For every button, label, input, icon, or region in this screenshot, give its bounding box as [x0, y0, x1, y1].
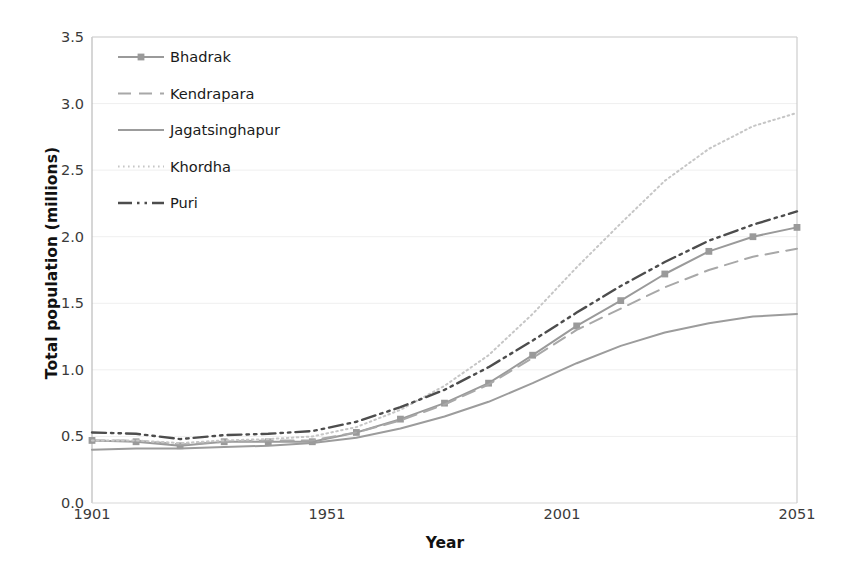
plot-area: BhadrakKendraparaJagatsinghapurKhordhaPu… — [0, 0, 848, 582]
legend-marker-bhadrak — [138, 54, 145, 61]
series-marker-bhadrak — [617, 297, 624, 304]
series-marker-bhadrak — [397, 416, 404, 423]
series-line-jagatsinghapur — [92, 314, 797, 450]
series-marker-bhadrak — [133, 438, 140, 445]
series-line-bhadrak — [92, 227, 797, 445]
legend-label-kendrapara: Kendrapara — [170, 85, 254, 102]
series-line-kendrapara — [92, 249, 797, 445]
population-line-chart: 0.00.51.01.52.02.53.03.5 Total populatio… — [0, 0, 848, 582]
legend-label-khordha: Khordha — [170, 158, 231, 175]
series-marker-bhadrak — [750, 233, 757, 240]
series-marker-bhadrak — [529, 352, 536, 359]
series-marker-bhadrak — [705, 248, 712, 255]
series-marker-bhadrak — [794, 224, 801, 231]
series-marker-bhadrak — [661, 271, 668, 278]
legend-label-puri: Puri — [170, 194, 198, 211]
legend-label-jagatsinghapur: Jagatsinghapur — [169, 121, 280, 138]
legend-label-bhadrak: Bhadrak — [170, 48, 231, 65]
